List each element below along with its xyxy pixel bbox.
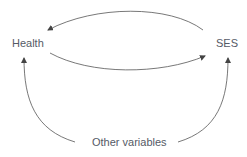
node-other-variables: Other variables bbox=[92, 136, 167, 148]
node-health: Health bbox=[12, 37, 44, 49]
arrow-other-to-health bbox=[24, 58, 75, 142]
arrow-ses-to-health bbox=[48, 11, 203, 30]
node-ses: SES bbox=[216, 37, 238, 49]
diagram-arrows bbox=[0, 0, 247, 157]
arrow-health-to-ses bbox=[50, 53, 205, 70]
arrow-other-to-ses bbox=[178, 58, 228, 142]
